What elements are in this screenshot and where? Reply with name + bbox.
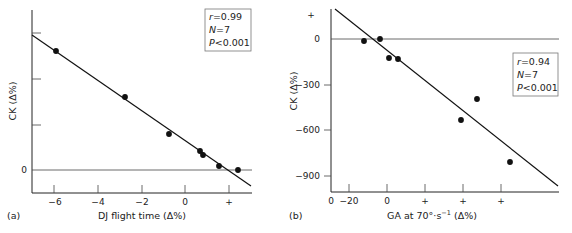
panel-b-data-point — [395, 56, 401, 62]
panel-a-stat-n: N=7 — [209, 24, 230, 35]
panel-b-y-tick-label: −900 — [295, 171, 320, 181]
panel-b-stats-box: r=0.94 N=7 P<0.001 — [513, 53, 558, 96]
panel-b-x-tick-label: + — [459, 196, 467, 206]
panel-a-data-point — [122, 94, 128, 100]
panel-b-y-axis-title: CK (Δ%) — [288, 72, 299, 111]
panel-b-x-axis-title: GA at 70°·s−1 (Δ%) — [387, 209, 477, 221]
panel-a-x-tick-label: + — [225, 197, 233, 207]
panel-b-y-tick-label: −300 — [295, 80, 320, 90]
panel-a-x-tick-label: −6 — [48, 197, 62, 207]
panel-b-stat-r: r=0.94 — [517, 56, 550, 67]
panel-a-y-axis-title: CK (Δ%) — [7, 82, 18, 121]
panel-a-x-axis-title: DJ flight time (Δ%) — [98, 210, 186, 221]
panel-a-y-tick-label: 0 — [21, 165, 27, 175]
panel-b: + 0 −300 −600 −900 0 −20 0 + + + GA at 7… — [288, 9, 559, 221]
panel-b-regression-line — [335, 9, 558, 186]
panel-b-x-tick-label: −20 — [340, 196, 359, 206]
panel-b-y-tick-label: 0 — [314, 34, 320, 44]
panel-b-stat-p: P<0.001 — [517, 82, 558, 93]
panel-a-data-point — [200, 152, 206, 158]
panel-b-x-tick-label: + — [421, 196, 429, 206]
figure: 0 −6 −4 −2 0 + DJ flight time (Δ%) CK (Δ… — [0, 0, 572, 233]
panel-b-data-point — [361, 38, 367, 44]
panel-b-data-point — [386, 55, 392, 61]
panel-a-label: (a) — [7, 210, 20, 221]
panel-a-data-point — [216, 163, 222, 169]
panel-a-stat-p: P<0.001 — [209, 37, 250, 48]
panel-a-data-point — [166, 131, 172, 137]
panel-b-x-tick-label: 0 — [384, 196, 390, 206]
panel-b-y-tick-label: −600 — [295, 125, 320, 135]
panel-a-stats-box: r=0.99 N=7 P<0.001 — [205, 9, 251, 51]
panel-b-data-point — [507, 159, 513, 165]
panel-b-x-tick-label: 0 — [328, 196, 334, 206]
panel-b-y-tick-label: + — [307, 10, 315, 20]
panel-a-x-tick-label: 0 — [182, 197, 188, 207]
panel-a-data-point — [53, 48, 59, 54]
panel-b-stat-n: N=7 — [517, 69, 538, 80]
panel-a-x-tick-label: −2 — [135, 197, 148, 207]
panel-b-data-point — [377, 36, 383, 42]
panel-a-stat-r: r=0.99 — [209, 11, 242, 22]
panel-a: 0 −6 −4 −2 0 + DJ flight time (Δ%) CK (Δ… — [7, 9, 252, 221]
panel-a-x-tick-label: −4 — [91, 197, 105, 207]
panel-b-label: (b) — [289, 210, 302, 221]
panel-a-data-point — [235, 167, 241, 173]
panel-b-data-point — [474, 96, 480, 102]
panel-b-x-tick-label: + — [497, 196, 505, 206]
panel-b-data-point — [458, 117, 464, 123]
